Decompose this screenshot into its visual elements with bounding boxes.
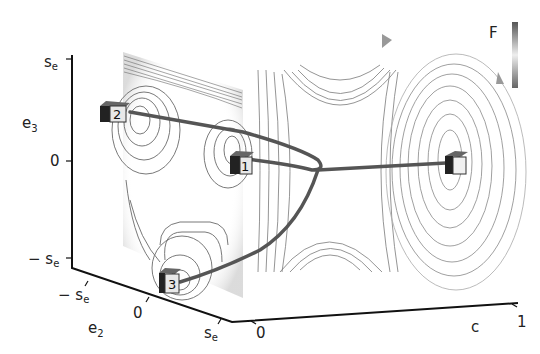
e3-tick-max: se (44, 53, 58, 72)
e2-tick-max: se (204, 324, 218, 343)
free-energy-diagram: 2 1 3 se 0 − se e3 (0, 0, 540, 354)
e3-axis-title: e3 (22, 114, 38, 134)
e2-tick-zero: 0 (133, 304, 143, 322)
panel-edge-marker (496, 72, 504, 84)
colorbar: F (489, 22, 518, 88)
e2-tick-min: − se (58, 286, 89, 305)
c-tick-one: 1 (517, 313, 527, 331)
colorbar-label: F (489, 24, 498, 42)
minimum-box-1: 1 (230, 151, 254, 174)
minimum-label-2: 2 (113, 107, 121, 122)
minimum-box-4 (445, 151, 468, 174)
e2-axis-title: e2 (88, 319, 104, 339)
panel-edge-marker (382, 34, 392, 48)
e3-axis-labels: se 0 − se e3 (22, 53, 60, 269)
minimum-box-2: 2 (100, 101, 130, 122)
minimum-box-3: 3 (159, 268, 181, 293)
c-tick-zero: 0 (256, 324, 266, 342)
c-axis-title: c (471, 318, 479, 336)
e2-axis-labels: − se 0 se e2 (58, 286, 218, 343)
minimum-label-3: 3 (168, 277, 176, 292)
e3-tick-zero: 0 (50, 152, 60, 170)
minimum-label-1: 1 (241, 159, 249, 174)
e3-tick-min: − se (28, 250, 59, 269)
